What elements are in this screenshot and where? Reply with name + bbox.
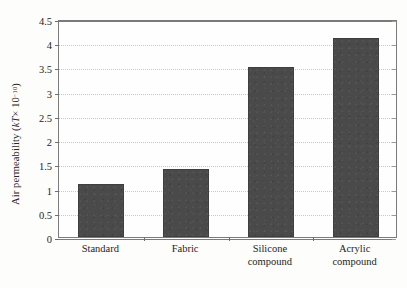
x-axis-category-line: Fabric bbox=[143, 243, 228, 256]
plot-area: 00.511.522.533.544.5 bbox=[58, 20, 397, 238]
bar-chart-figure: Air permeability (kT × 10−10) 00.511.522… bbox=[0, 0, 407, 288]
y-axis-tick-label: 0 bbox=[47, 234, 52, 245]
y-axis-title-suffix: ) bbox=[10, 83, 21, 87]
x-axis-category-line: Standard bbox=[58, 243, 143, 256]
x-axis-category-label: Standard bbox=[58, 243, 143, 256]
y-axis-tick-label: 3.5 bbox=[39, 64, 52, 75]
x-axis-tick bbox=[144, 237, 145, 241]
x-axis-tick bbox=[229, 237, 230, 241]
x-axis-category-line: Silicone bbox=[228, 243, 313, 256]
bar[interactable] bbox=[248, 67, 294, 237]
y-axis-title-mid: × 10 bbox=[10, 97, 21, 116]
x-axis-category-line: compound bbox=[228, 256, 313, 269]
y-axis-title: Air permeability (kT × 10−10) bbox=[0, 0, 30, 288]
bar[interactable] bbox=[78, 184, 124, 237]
x-axis-labels: StandardFabricSiliconecompoundAcryliccom… bbox=[58, 243, 397, 283]
y-axis-tick-label: 1.5 bbox=[39, 161, 52, 172]
bar[interactable] bbox=[163, 169, 209, 237]
x-axis-tick bbox=[313, 237, 314, 241]
x-axis-category-line: Acrylic bbox=[312, 243, 397, 256]
x-axis-category-label: Fabric bbox=[143, 243, 228, 256]
y-axis-tick-label: 4.5 bbox=[39, 16, 52, 27]
bar-slot bbox=[313, 21, 398, 237]
y-axis-tick-label: 0.5 bbox=[39, 209, 52, 220]
bar[interactable] bbox=[333, 38, 379, 237]
x-axis-category-label: Acryliccompound bbox=[312, 243, 397, 268]
y-axis-title-symbol: kT bbox=[10, 117, 21, 128]
x-axis-category-label: Siliconecompound bbox=[228, 243, 313, 268]
x-axis-category-line: compound bbox=[312, 256, 397, 269]
y-axis-tick bbox=[55, 239, 59, 240]
y-axis-tick-label: 2 bbox=[47, 137, 52, 148]
gridline bbox=[59, 239, 396, 240]
bar-slot bbox=[144, 21, 229, 237]
y-axis-title-prefix: Air permeability ( bbox=[10, 127, 21, 205]
y-axis-tick-label: 1 bbox=[47, 185, 52, 196]
bar-slot bbox=[59, 21, 144, 237]
bar-series bbox=[59, 21, 396, 237]
y-axis-tick-label: 2.5 bbox=[39, 112, 52, 123]
y-axis-tick-right bbox=[392, 239, 396, 240]
y-axis-tick-label: 3 bbox=[47, 88, 52, 99]
y-axis-tick-label: 4 bbox=[47, 40, 52, 51]
bar-slot bbox=[229, 21, 314, 237]
